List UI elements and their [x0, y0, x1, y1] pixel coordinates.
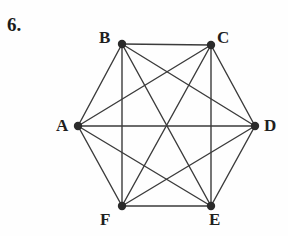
vertex-label-d: D: [264, 117, 276, 134]
graph-edge-a-b: [78, 44, 122, 126]
edge-layer: [78, 44, 255, 206]
graph-edge-b-c: [122, 44, 211, 45]
graph-vertex-e: [207, 202, 215, 210]
graph-edge-d-f: [122, 126, 255, 206]
vertex-label-a: A: [56, 117, 68, 134]
graph-vertex-d: [251, 122, 259, 130]
graph-edge-c-d: [211, 45, 255, 126]
vertex-label-c: C: [217, 29, 229, 46]
complete-graph-diagram: [0, 0, 288, 236]
graph-edge-a-f: [78, 126, 122, 206]
graph-edge-d-e: [211, 126, 255, 206]
figure-page: 6. ABCDEF: [0, 0, 288, 236]
graph-vertex-f: [118, 202, 126, 210]
vertex-label-b: B: [99, 29, 110, 46]
graph-vertex-a: [74, 122, 82, 130]
graph-vertex-c: [207, 41, 215, 49]
vertex-label-f: F: [100, 211, 110, 228]
vertex-label-e: E: [209, 211, 220, 228]
graph-vertex-b: [118, 40, 126, 48]
